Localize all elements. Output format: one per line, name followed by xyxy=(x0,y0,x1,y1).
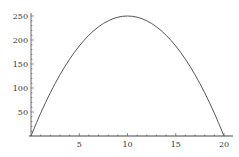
chart: 50100150200250 5101520 xyxy=(0,0,239,157)
x-axis: 5101520 xyxy=(29,133,233,149)
x-tick-label: 10 xyxy=(122,140,132,149)
x-tick-label: 5 xyxy=(77,140,82,149)
x-tick-label: 20 xyxy=(219,140,229,149)
y-tick-label: 200 xyxy=(13,36,28,45)
y-tick-label: 250 xyxy=(13,12,28,21)
y-axis: 50100150200250 xyxy=(13,12,34,136)
x-tick-label: 15 xyxy=(171,140,181,149)
y-tick-label: 50 xyxy=(18,108,28,117)
y-tick-label: 150 xyxy=(13,60,28,69)
data-line xyxy=(31,16,224,136)
y-tick-label: 100 xyxy=(13,84,28,93)
